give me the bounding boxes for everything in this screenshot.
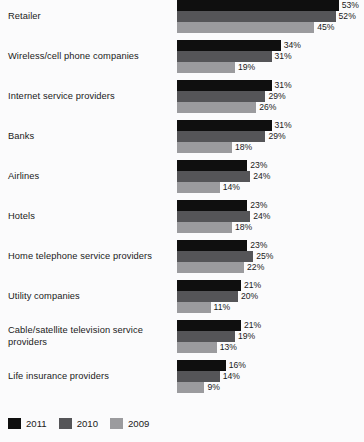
legend-label: 2011 (26, 418, 47, 429)
bar-group: Cable/satellite television service provi… (0, 320, 364, 353)
bar-2009 (177, 22, 314, 33)
bar-value-label: 53% (339, 0, 359, 11)
bar-value-label: 18% (232, 222, 252, 233)
bar-stack: 31%29%18% (177, 120, 364, 153)
category-label: Utility companies (8, 280, 173, 313)
bar-row: 53% (177, 0, 364, 11)
bar-group: Hotels23%24%18% (0, 200, 364, 233)
bar-value-label: 11% (211, 302, 231, 313)
bar-value-label: 24% (250, 171, 270, 182)
legend-swatch-icon (8, 418, 21, 429)
legend-swatch-icon (59, 418, 72, 429)
bar-2011 (177, 240, 247, 251)
bar-value-label: 19% (235, 331, 255, 342)
bar-2009 (177, 62, 235, 73)
bar-row: 14% (177, 182, 364, 193)
bar-row: 14% (177, 371, 364, 382)
bar-row: 26% (177, 102, 364, 113)
bar-2011 (177, 200, 247, 211)
bar-value-label: 34% (281, 40, 301, 51)
bar-row: 24% (177, 211, 364, 222)
bar-value-label: 29% (265, 91, 285, 102)
bar-stack: 23%24%18% (177, 200, 364, 233)
category-label: Airlines (8, 160, 173, 193)
bar-value-label: 16% (226, 360, 246, 371)
bar-stack: 21%19%13% (177, 320, 364, 353)
bar-2009 (177, 262, 244, 273)
bar-2011 (177, 120, 272, 131)
chart-plot-area: Retailer53%52%45%Wireless/cell phone com… (0, 0, 364, 404)
bar-stack: 23%24%14% (177, 160, 364, 193)
bar-row: 23% (177, 200, 364, 211)
bar-row: 23% (177, 160, 364, 171)
legend-item[interactable]: 2009 (110, 418, 149, 429)
bar-2009 (177, 142, 232, 153)
bar-2011 (177, 40, 281, 51)
bar-value-label: 45% (314, 22, 334, 33)
bar-2010 (177, 371, 220, 382)
bar-2009 (177, 302, 211, 313)
category-label: Home telephone service providers (8, 240, 173, 273)
bar-row: 31% (177, 51, 364, 62)
bar-row: 24% (177, 171, 364, 182)
category-label: Internet service providers (8, 80, 173, 113)
bar-group: Retailer53%52%45% (0, 0, 364, 33)
category-label: Wireless/cell phone companies (8, 40, 173, 73)
bar-row: 21% (177, 280, 364, 291)
bar-value-label: 18% (232, 142, 252, 153)
category-label: Life insurance providers (8, 360, 173, 393)
bar-stack: 31%29%26% (177, 80, 364, 113)
bar-value-label: 9% (204, 382, 219, 393)
bar-2010 (177, 211, 250, 222)
legend-item[interactable]: 2010 (59, 418, 98, 429)
bar-row: 13% (177, 342, 364, 353)
bar-row: 19% (177, 62, 364, 73)
bar-group: Airlines23%24%14% (0, 160, 364, 193)
category-label: Hotels (8, 200, 173, 233)
bar-2011 (177, 160, 247, 171)
bar-2010 (177, 131, 265, 142)
bar-2009 (177, 222, 232, 233)
bar-2011 (177, 0, 339, 11)
bar-row: 29% (177, 91, 364, 102)
bar-row: 20% (177, 291, 364, 302)
bar-2010 (177, 331, 235, 342)
bar-group: Internet service providers31%29%26% (0, 80, 364, 113)
bar-row: 34% (177, 40, 364, 51)
bar-stack: 53%52%45% (177, 0, 364, 33)
horizontal-bar-chart: Retailer53%52%45%Wireless/cell phone com… (0, 0, 364, 442)
legend-item[interactable]: 2011 (8, 418, 47, 429)
bar-value-label: 21% (241, 320, 261, 331)
bar-value-label: 29% (265, 131, 285, 142)
bar-value-label: 23% (247, 200, 267, 211)
bar-value-label: 31% (272, 120, 292, 131)
bar-value-label: 20% (238, 291, 258, 302)
bar-value-label: 25% (253, 251, 273, 262)
bar-stack: 23%25%22% (177, 240, 364, 273)
bar-row: 21% (177, 320, 364, 331)
bar-value-label: 22% (244, 262, 264, 273)
bar-row: 11% (177, 302, 364, 313)
bar-row: 45% (177, 22, 364, 33)
legend-swatch-icon (110, 418, 123, 429)
bar-value-label: 14% (220, 371, 240, 382)
bar-group: Home telephone service providers23%25%22… (0, 240, 364, 273)
bar-2011 (177, 80, 272, 91)
bar-value-label: 14% (220, 182, 240, 193)
bar-row: 31% (177, 120, 364, 131)
bar-2011 (177, 360, 226, 371)
bar-value-label: 13% (217, 342, 237, 353)
bar-2010 (177, 11, 336, 22)
chart-legend: 201120102009 (8, 418, 161, 429)
bar-row: 19% (177, 331, 364, 342)
bar-group: Wireless/cell phone companies34%31%19% (0, 40, 364, 73)
bar-value-label: 21% (241, 280, 261, 291)
bar-row: 22% (177, 262, 364, 273)
bar-row: 25% (177, 251, 364, 262)
bar-stack: 21%20%11% (177, 280, 364, 313)
bar-value-label: 23% (247, 240, 267, 251)
bar-row: 18% (177, 142, 364, 153)
bar-2009 (177, 102, 256, 113)
bar-2009 (177, 182, 220, 193)
bar-value-label: 31% (272, 51, 292, 62)
